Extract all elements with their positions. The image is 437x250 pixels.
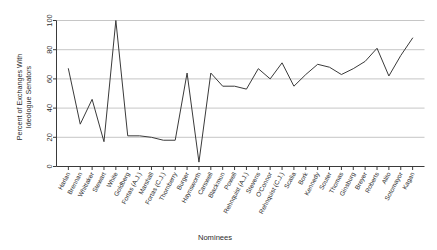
y-tick-label: 0	[45, 164, 54, 168]
y-tick-label: 60	[45, 75, 54, 83]
y-tick-label: 100	[45, 14, 54, 26]
y-axis-title-line2: Ideologue Senators	[24, 65, 33, 128]
y-tick-label: 40	[45, 104, 54, 112]
x-axis-title: Nominees	[198, 233, 232, 242]
chart-background	[0, 0, 437, 250]
line-chart: 020406080100 HarlanBrennanWhittakerStewa…	[0, 0, 437, 250]
y-axis-title-line1: Percent of Exchanges With	[15, 54, 24, 141]
chart-figure: 020406080100 HarlanBrennanWhittakerStewa…	[0, 0, 437, 250]
y-tick-label: 20	[45, 133, 54, 141]
y-tick-label: 80	[45, 46, 54, 54]
